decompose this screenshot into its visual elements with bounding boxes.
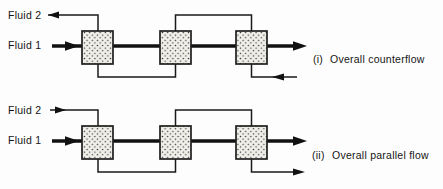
parallel-flow-diagram: Fluid 2 Fluid 1 (ii) Overall parallel fl…	[8, 104, 429, 176]
counterflow-diagram: Fluid 2 Fluid 1 (i) Overall counterflow	[8, 9, 425, 81]
parallel-flow-caption-index: (ii)	[312, 149, 325, 161]
figure-canvas: Fluid 2 Fluid 1 (i) Overall counterflow …	[0, 0, 443, 189]
fluid1-end-arrowhead	[293, 136, 307, 146]
fluid1-label: Fluid 1	[8, 39, 41, 51]
heat-exchanger-box-1	[82, 126, 113, 159]
fluid2-outlet-arrowhead	[293, 168, 305, 175]
heat-exchanger-box-1	[82, 31, 113, 64]
fluid2-inlet-arrowhead	[55, 106, 66, 113]
fluid2-label: Fluid 2	[8, 9, 41, 21]
fluid2-inlet-arrowhead	[272, 73, 284, 80]
heat-exchanger-box-3	[236, 31, 267, 64]
heat-exchanger-box-2	[160, 31, 191, 64]
heat-exchanger-box-2	[160, 126, 191, 159]
heat-exchanger-flow-figure: Fluid 2 Fluid 1 (i) Overall counterflow …	[0, 0, 443, 189]
heat-exchanger-box-3	[236, 126, 267, 159]
fluid2-label: Fluid 2	[8, 104, 41, 116]
fluid1-end-arrowhead	[293, 41, 307, 51]
fluid1-label: Fluid 1	[8, 134, 41, 146]
parallel-flow-caption-text: Overall parallel flow	[332, 149, 429, 161]
fluid1-start-arrowhead	[65, 41, 79, 51]
fluid2-outlet-arrowhead	[48, 11, 59, 18]
counterflow-caption-index: (i)	[313, 53, 323, 65]
fluid1-start-arrowhead	[65, 136, 79, 146]
counterflow-caption-text: Overall counterflow	[330, 53, 425, 65]
